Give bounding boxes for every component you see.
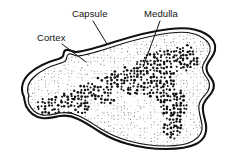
cortex-dot [163,39,164,40]
cortex-dot [77,77,78,78]
cortex-dot [130,60,131,61]
cortex-dot [52,80,53,81]
cortex-dot [58,82,59,83]
cortex-dot [121,109,122,110]
medulla-dot [149,85,151,87]
cortex-dot [28,100,29,101]
medulla-dot [132,85,134,87]
medulla-dot [63,105,66,108]
cortex-dot [120,44,121,45]
medulla-dot [185,108,187,110]
cortex-dot [81,77,82,78]
medulla-dot [140,79,142,81]
medulla-dot [163,131,165,133]
cortex-dot [138,103,139,104]
cortex-dot [136,48,137,49]
cortex-dot [207,42,208,43]
cortex-dot [31,80,32,81]
medulla-dot [157,99,160,102]
cortex-dot [32,93,33,94]
medulla-dot [160,72,162,74]
medulla-dot [172,72,175,75]
medulla-dot [123,70,125,72]
medulla-dot [70,93,73,96]
cortex-dot [157,135,158,136]
cortex-dot [127,55,128,56]
cortex-dot [197,105,198,106]
medulla-dot [173,107,176,110]
medulla-dot [133,75,135,77]
medulla-dot [153,86,155,88]
medulla-dot [169,95,171,97]
cortex-dot [140,131,141,132]
medulla-dot [192,50,194,52]
medulla-dot [80,95,83,98]
cortex-dot [54,68,55,69]
medulla-dot [176,114,178,116]
medulla-dot [126,69,129,72]
medulla-dot [166,124,168,126]
cortex-dot [206,83,207,84]
medulla-dot [57,104,60,107]
cortex-dot [128,112,129,113]
cortex-dot [67,89,68,90]
cortex-dot [193,93,194,94]
cortex-dot [166,45,167,46]
cortex-dot [131,140,132,141]
cortex-dot [29,96,30,97]
cortex-dot [196,77,197,78]
cortex-dot [113,128,114,129]
medulla-dot [84,99,86,101]
cortex-dot [111,115,112,116]
cortex-dot [104,106,105,107]
medulla-dot [173,83,175,85]
cortex-dot [189,99,190,100]
medulla-dot [162,89,164,91]
cortex-dot [159,134,160,135]
cortex-dot [35,84,36,85]
cortex-dot [134,140,135,141]
cortex-dot [87,61,88,62]
cortex-dot [134,116,135,117]
cortex-dot [197,96,198,97]
cortex-dot [160,144,161,145]
cortex-dot [121,52,122,53]
cortex-dot [179,35,180,36]
medulla-dot [101,79,104,82]
cortex-dot [84,70,85,71]
cortex-dot [207,44,208,45]
medulla-dot [160,76,162,78]
cortex-dot [186,93,187,94]
cortex-dot [45,80,46,81]
cortex-dot [134,127,135,128]
cortex-dot [197,86,198,87]
cortex-dot [190,134,191,135]
medulla-dot [81,112,83,114]
cortex-dot [59,71,60,72]
cortex-dot [157,112,158,113]
cortex-dot [196,102,197,103]
cortex-dot [163,134,164,135]
medulla-dot [146,72,149,75]
medulla-dot [37,106,39,108]
cortex-dot [78,57,79,58]
medulla-dot [103,89,105,91]
medulla-dot [150,64,153,67]
medulla-dot [106,80,108,82]
cortex-dot [150,117,151,118]
cortex-dot [150,114,151,115]
cortex-dot [81,79,82,80]
cortex-dot [140,106,141,107]
cortex-dot [193,44,194,45]
medulla-dot [86,108,89,111]
medulla-dot [143,73,145,75]
medulla-dot [76,91,79,94]
cortex-dot [204,86,205,87]
cortex-dot [134,125,135,126]
cortex-dot [70,86,71,87]
cortex-dot [48,93,49,94]
cortex-dot [54,71,55,72]
cortex-dot [111,70,112,71]
cortex-dot [196,48,197,49]
cortex-dot [167,48,168,49]
